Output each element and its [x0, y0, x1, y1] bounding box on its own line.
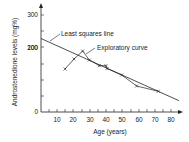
x-tick-label: 70 [151, 116, 159, 123]
exploratory-annotation: Exploratory curve [97, 44, 148, 52]
x-tick-label: 80 [167, 116, 175, 123]
y-axis-label: Androstenedione levels (mg%) [11, 18, 19, 107]
x-tick-label: 50 [118, 116, 126, 123]
x-tick-label: 10 [53, 116, 61, 123]
y-axis-arrow-icon [39, 3, 43, 8]
least-squares-pointer [50, 34, 60, 41]
x-tick-label: 60 [135, 116, 143, 123]
x-ticks [49, 109, 171, 112]
chart: 10 20 30 40 50 60 70 80 0 100 300 200 Ag… [0, 0, 189, 142]
exploratory-pointer [86, 48, 95, 54]
x-axis-label: Age (years) [93, 128, 127, 136]
x-tick-label: 20 [69, 116, 77, 123]
y-ticks [41, 15, 44, 96]
x-tick-label: 40 [102, 116, 110, 123]
y-tick-label: 300 [27, 11, 38, 18]
y-tick-label: 0 [34, 108, 38, 115]
data-markers [64, 50, 160, 93]
y-tick-label: 200 [27, 44, 38, 51]
least-squares-annotation: Least squares line [61, 30, 114, 38]
x-axis-arrow-icon [178, 110, 183, 114]
x-tick-label: 30 [86, 116, 94, 123]
